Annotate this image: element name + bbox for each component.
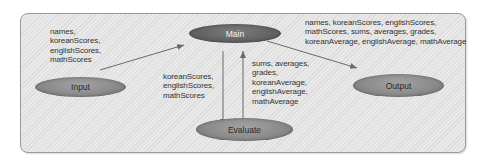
edge-label-main-to-output: names, koreanScores, englishScores, math… [305, 18, 466, 46]
label-line: names, [50, 27, 101, 36]
node-evaluate[interactable]: Evaluate [196, 118, 293, 141]
node-input-label: Input [71, 82, 90, 92]
label-line: englishScores, [163, 81, 214, 90]
label-line: koreanScores, [50, 36, 101, 45]
label-line: sums, averages, [252, 59, 309, 68]
label-line: englishScores, [50, 46, 101, 55]
label-line: koreanAverage, [252, 78, 309, 87]
label-line: englishAverage, [252, 87, 309, 96]
node-evaluate-label: Evaluate [228, 125, 261, 135]
label-line: mathScores [50, 55, 101, 64]
node-main-label: Main [226, 29, 244, 39]
node-main[interactable]: Main [189, 24, 281, 43]
label-line: koreanScores, [163, 72, 214, 81]
edge-label-main-to-evaluate: koreanScores, englishScores, mathScores [163, 72, 214, 100]
label-line: mathAverage [252, 97, 309, 106]
label-line: names, koreanScores, englishScores, [305, 18, 466, 27]
label-line: mathScores [163, 91, 214, 100]
edge-label-input-to-main: names, koreanScores, englishScores, math… [50, 27, 101, 65]
label-line: grades, [252, 68, 309, 77]
node-output[interactable]: Output [353, 74, 444, 97]
node-input[interactable]: Input [35, 77, 126, 97]
label-line: mathScores, sums, averages, grades, [305, 27, 466, 36]
edge-label-evaluate-to-main: sums, averages, grades, koreanAverage, e… [252, 59, 309, 106]
label-line: koreanAverage, englishAverage, mathAvera… [305, 37, 466, 46]
node-output-label: Output [386, 81, 412, 91]
